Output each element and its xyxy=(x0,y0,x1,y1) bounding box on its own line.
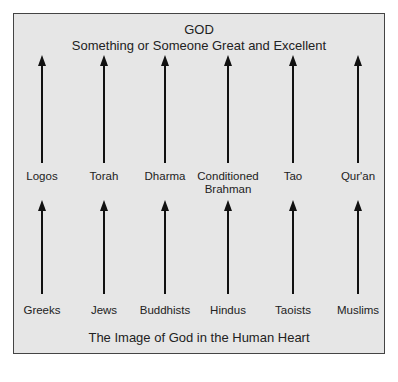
arrow-shaft xyxy=(164,208,167,294)
arrow-shaft xyxy=(292,208,295,294)
arrow-shaft xyxy=(41,63,44,163)
diagram-caption: The Image of God in the Human Heart xyxy=(0,330,398,345)
arrowhead-icon xyxy=(289,200,297,211)
arrowhead-icon xyxy=(289,55,297,66)
arrow-shaft xyxy=(227,63,230,163)
bottom-label: Muslims xyxy=(313,304,398,317)
arrowhead-icon xyxy=(161,200,169,211)
arrow-shaft xyxy=(227,208,230,294)
arrowhead-icon xyxy=(354,200,362,211)
arrow-shaft xyxy=(103,208,106,294)
arrowhead-icon xyxy=(38,200,46,211)
arrowhead-icon xyxy=(38,55,46,66)
arrowhead-icon xyxy=(354,55,362,66)
arrowhead-icon xyxy=(100,200,108,211)
arrow-shaft xyxy=(292,63,295,163)
diagram-subtitle: Something or Someone Great and Excellent xyxy=(0,38,398,53)
arrowhead-icon xyxy=(100,55,108,66)
arrow-shaft xyxy=(357,208,360,294)
middle-label: Qur'an xyxy=(313,170,398,183)
arrow-shaft xyxy=(41,208,44,294)
arrowhead-icon xyxy=(224,55,232,66)
arrowhead-icon xyxy=(224,200,232,211)
arrow-shaft xyxy=(357,63,360,163)
arrow-shaft xyxy=(164,63,167,163)
arrowhead-icon xyxy=(161,55,169,66)
arrow-shaft xyxy=(103,63,106,163)
diagram-title: GOD xyxy=(0,22,398,37)
